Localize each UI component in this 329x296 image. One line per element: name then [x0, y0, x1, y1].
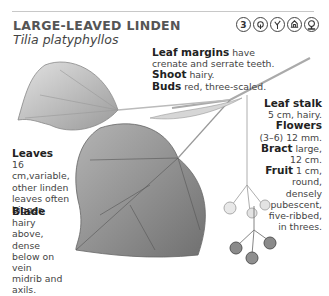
- upper-leaf: [18, 62, 118, 130]
- flower: [224, 202, 236, 214]
- leaf-stalk-note: Leaf stalk 5 cm, hairy. Flowers (3–6) 12…: [258, 98, 322, 232]
- blade-note: Blade hairy above, dense below on vein m…: [12, 206, 64, 296]
- fruit: [230, 242, 242, 254]
- leaf-margins-note: Leaf margins have crenate and serrate te…: [152, 47, 282, 92]
